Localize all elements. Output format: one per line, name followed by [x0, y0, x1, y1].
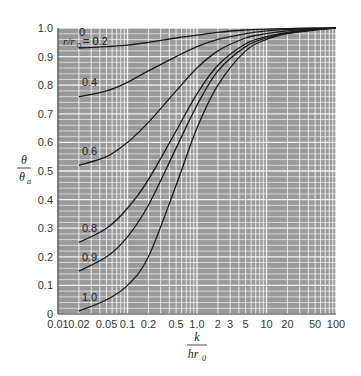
svg-text:10: 10: [260, 318, 272, 330]
svg-text:1.0: 1.0: [38, 22, 53, 34]
svg-text:hr: hr: [188, 347, 199, 361]
svg-text:0: 0: [202, 354, 206, 363]
x-tick-labels: 0.010.020.050.10.20.51.0235102050100: [47, 318, 345, 330]
svg-text:2: 2: [215, 318, 221, 330]
svg-text:0.05: 0.05: [96, 318, 117, 330]
svg-text:θ: θ: [21, 153, 27, 167]
svg-text:0.2: 0.2: [141, 318, 156, 330]
svg-text:0.8: 0.8: [38, 79, 53, 91]
svg-text:1.0: 1.0: [82, 291, 97, 303]
svg-text:5: 5: [243, 318, 249, 330]
svg-text:0.8: 0.8: [82, 222, 97, 234]
chart: 00.10.20.30.40.50.60.70.80.91.0 0.010.02…: [0, 0, 361, 376]
svg-text:0.2: 0.2: [38, 251, 53, 263]
svg-text:0.6: 0.6: [82, 145, 97, 157]
svg-text:0.1: 0.1: [38, 279, 53, 291]
y-axis-label: θ θ a: [17, 153, 31, 186]
svg-text:3: 3: [227, 318, 233, 330]
svg-text:0.4: 0.4: [82, 76, 97, 88]
svg-text:0.7: 0.7: [38, 108, 53, 120]
svg-text:0.9: 0.9: [38, 51, 53, 63]
svg-text:θ: θ: [19, 170, 25, 184]
svg-text:20: 20: [281, 318, 293, 330]
svg-text:0: 0: [77, 42, 81, 49]
svg-text:k: k: [194, 330, 200, 344]
x-axis-label: k hr 0: [187, 330, 207, 363]
svg-text:0.5: 0.5: [38, 165, 53, 177]
svg-text:0.6: 0.6: [38, 136, 53, 148]
svg-text:0.02: 0.02: [68, 318, 89, 330]
svg-text:50: 50: [309, 318, 321, 330]
svg-text:1.0: 1.0: [189, 318, 204, 330]
svg-text:0.5: 0.5: [168, 318, 183, 330]
svg-text:0.9: 0.9: [82, 251, 97, 263]
svg-text:0.01: 0.01: [47, 318, 68, 330]
svg-text:0.3: 0.3: [38, 222, 53, 234]
svg-text:= 0.2: = 0.2: [83, 35, 108, 47]
y-tick-labels: 00.10.20.30.40.50.60.70.80.91.0: [38, 22, 53, 320]
svg-text:100: 100: [327, 318, 345, 330]
svg-text:r/r: r/r: [63, 35, 75, 47]
svg-text:0.4: 0.4: [38, 194, 53, 206]
svg-text:a: a: [27, 177, 31, 186]
svg-text:0.1: 0.1: [120, 318, 135, 330]
